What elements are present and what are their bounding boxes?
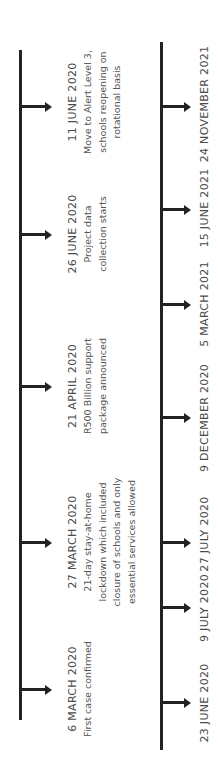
event-text: collection starts — [96, 164, 111, 304]
arrow-down-icon — [45, 382, 52, 392]
event-text: rotational basis — [110, 32, 125, 172]
arrow-stem — [162, 701, 186, 704]
arrow-stem — [21, 688, 47, 691]
event-text: essential services allowed — [125, 472, 140, 612]
event-21-april-2020: 21 APRIL 2020 R500 Billion support packa… — [64, 316, 110, 456]
arrow-down-icon — [45, 102, 52, 112]
arrow-stem — [162, 303, 186, 306]
bottom-date-label: 15 JUNE 2021 — [198, 148, 211, 268]
event-text: 21-day stay-at-home — [81, 472, 96, 612]
arrow-down-icon — [184, 102, 191, 112]
bottom-timeline-axis — [160, 42, 163, 750]
arrow-down-icon — [184, 205, 191, 215]
arrow-down-icon — [184, 603, 191, 613]
arrow-stem — [162, 541, 186, 544]
arrow-stem — [21, 541, 47, 544]
event-text: lockdown which included — [96, 472, 111, 612]
arrow-down-icon — [184, 698, 191, 708]
event-26-june-2020: 26 JUNE 2020 Project data collection sta… — [64, 164, 110, 304]
event-6-march-2020: 6 MARCH 2020 First case confirmed — [64, 619, 96, 759]
arrow-stem — [21, 233, 47, 236]
event-text: schools reopening on — [96, 32, 111, 172]
arrow-stem — [21, 385, 47, 388]
event-text: R500 Billion support — [81, 316, 96, 456]
event-text: Move to Alert Level 3, — [81, 32, 96, 172]
bottom-date-label: 9 DECEMBER 2020 — [198, 358, 211, 478]
arrow-stem — [162, 105, 186, 108]
arrow-down-icon — [184, 538, 191, 548]
event-11-june-2020: 11 JUNE 2020 Move to Alert Level 3, scho… — [64, 32, 125, 172]
event-date: 21 APRIL 2020 — [64, 316, 81, 456]
timeline-figure: 6 MARCH 2020 First case confirmed 27 MAR… — [0, 0, 218, 784]
arrow-stem — [162, 208, 186, 211]
event-date: 26 JUNE 2020 — [64, 164, 81, 304]
event-text: Project data — [81, 164, 96, 304]
arrow-down-icon — [45, 538, 52, 548]
arrow-stem — [162, 416, 186, 419]
bottom-date-label: 27 JULY 2020 — [198, 474, 211, 594]
event-text: First case confirmed — [81, 619, 96, 759]
arrow-stem — [162, 606, 186, 609]
arrow-down-icon — [45, 230, 52, 240]
event-date: 6 MARCH 2020 — [64, 619, 81, 759]
event-text: package announced — [96, 316, 111, 456]
event-27-march-2020: 27 MARCH 2020 21-day stay-at-home lockdo… — [64, 472, 139, 612]
event-date: 11 JUNE 2020 — [64, 32, 81, 172]
arrow-down-icon — [45, 685, 52, 695]
bottom-date-label: 24 NOVEMBER 2021 — [198, 44, 211, 164]
arrow-down-icon — [184, 300, 191, 310]
arrow-stem — [21, 105, 47, 108]
event-text: closure of schools and only — [110, 472, 125, 612]
arrow-down-icon — [184, 413, 191, 423]
event-date: 27 MARCH 2020 — [64, 472, 81, 612]
